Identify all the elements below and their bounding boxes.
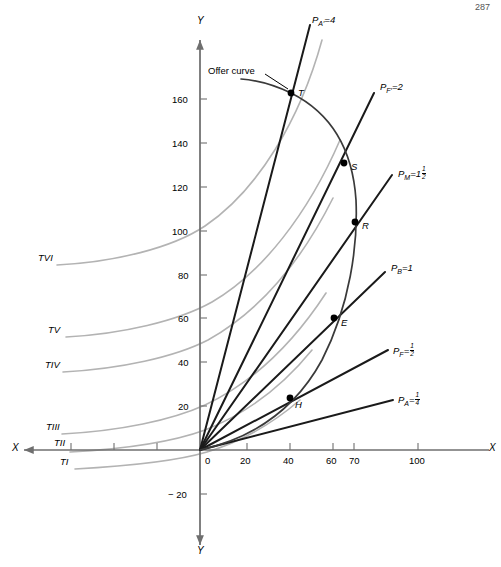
indifference-label-TII: TII: [54, 438, 65, 448]
point-S: [341, 160, 348, 167]
price-line-group: [200, 25, 393, 450]
point-label-H: H: [295, 400, 302, 410]
price-label-value-PM: 1: [416, 168, 421, 179]
point-H: [287, 395, 294, 402]
x-tick-label-60: 60: [326, 456, 337, 466]
y-tick-label-160: 160: [172, 95, 188, 105]
offer-curve: [200, 79, 356, 450]
x-axis-name-left: X: [12, 443, 19, 453]
y-tick-label-40: 40: [178, 358, 189, 368]
price-line-label-PFp: PF′=2: [380, 82, 403, 94]
indifference-label-TV: TV: [48, 325, 60, 335]
point-label-S: S: [351, 162, 357, 172]
axes-group: [24, 40, 489, 545]
figure-canvas: 287: [0, 0, 501, 567]
y-tick-label-140: 140: [172, 139, 188, 149]
y-tick-label-100: 100: [172, 227, 188, 237]
y-tick-label-120: 120: [172, 183, 188, 193]
y-axis-name-bottom: Y: [197, 546, 204, 556]
point-R: [352, 219, 359, 226]
point-E: [331, 315, 338, 322]
point-label-T: T: [298, 88, 304, 98]
indifference-curve-TIII: [62, 293, 326, 434]
price-label-value-PFp: 2: [398, 81, 403, 92]
point-group: [287, 90, 359, 402]
indifference-label-TIII: TIII: [46, 422, 60, 432]
price-label-eq-PA: =: [409, 394, 415, 405]
indifference-label-TIV: TIV: [45, 360, 60, 370]
price-label-frac-PA: 14: [415, 392, 420, 407]
y-tick-label-minus20: − 20: [168, 490, 187, 500]
x-axis-ticks: [71, 443, 418, 450]
indifference-curve-TVI: [57, 40, 322, 265]
x-tick-label-70: 70: [349, 456, 360, 466]
point-label-R: R: [362, 221, 369, 231]
price-label-value-PAp: 4: [330, 14, 335, 25]
price-line-PB: [200, 272, 385, 450]
price-label-value-PB: 1: [408, 262, 413, 273]
y-tick-label-20: 20: [178, 402, 189, 412]
x-tick-label-0: 0: [205, 456, 210, 466]
chart-svg: [0, 0, 501, 567]
price-line-label-PA: PA=14: [398, 392, 420, 407]
y-tick-label-60: 60: [178, 314, 189, 324]
indifference-label-TI: TI: [60, 457, 68, 467]
price-label-frac-PF: 12: [410, 343, 415, 358]
y-tick-label-80: 80: [178, 271, 189, 281]
price-label-eq-PF: =: [404, 345, 410, 356]
x-tick-label-20: 20: [240, 456, 251, 466]
x-axis-name-right: X: [489, 443, 496, 453]
point-T: [288, 90, 295, 97]
indifference-label-TVI: TVI: [38, 253, 53, 263]
price-label-frac-PM: 12: [422, 166, 427, 181]
price-line-PAp: [200, 25, 310, 450]
x-tick-label-100: 100: [409, 456, 425, 466]
indifference-curve-TII: [70, 350, 312, 452]
x-tick-label-40: 40: [283, 456, 294, 466]
price-line-label-PM: PM=112: [398, 166, 426, 181]
price-line-label-PAp: PA′=4: [312, 15, 335, 27]
y-axis-name-top: Y: [197, 16, 204, 26]
price-line-label-PF: PF=12: [393, 343, 414, 358]
offer-curve-annotation: Offer curve: [208, 66, 255, 76]
price-line-label-PB: PB=1: [391, 263, 413, 275]
point-label-E: E: [341, 318, 347, 328]
